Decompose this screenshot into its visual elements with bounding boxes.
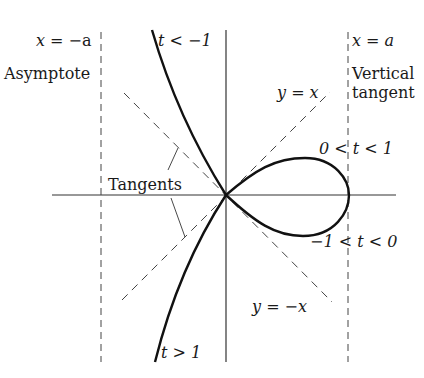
label-t-gt-1: t > 1 bbox=[161, 343, 201, 362]
tangents-pointer-lower bbox=[171, 198, 185, 237]
label-y-eq-minus-x: y = −x bbox=[251, 297, 307, 316]
label-loop-upper: 0 < t < 1 bbox=[319, 139, 393, 158]
curve-branch-upper bbox=[152, 30, 226, 195]
label-vertical: Vertical bbox=[351, 64, 414, 83]
label-x-eq-minus-a: x = −a bbox=[36, 31, 92, 50]
curve-branch-lower bbox=[155, 195, 226, 362]
label-tangents: Tangents bbox=[108, 175, 182, 194]
label-asymptote: Asymptote bbox=[3, 64, 90, 83]
label-x-eq-a: x = a bbox=[352, 31, 394, 50]
label-loop-lower: −1 < t < 0 bbox=[310, 232, 397, 251]
label-t-lt-minus-1: t < −1 bbox=[158, 31, 212, 50]
strophoid-diagram: x = −a Asymptote t < −1 x = a Vertical t… bbox=[0, 0, 424, 378]
label-y-eq-x: y = x bbox=[276, 83, 319, 102]
curve-loop bbox=[226, 158, 349, 236]
tangents-pointer-upper bbox=[168, 148, 178, 170]
label-tangent: tangent bbox=[352, 83, 415, 102]
